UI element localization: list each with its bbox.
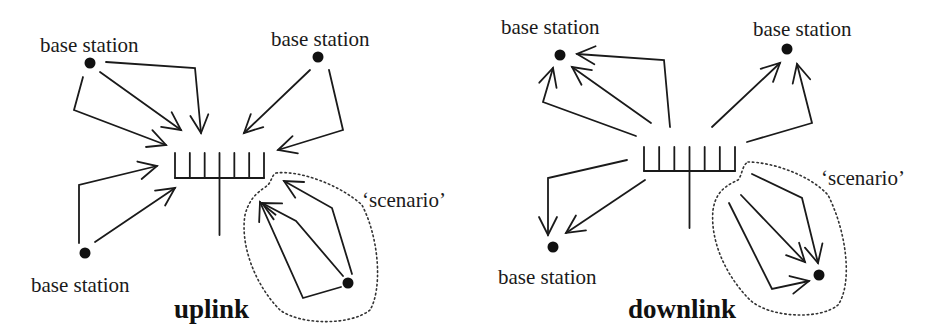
base-station-dot [313,52,324,63]
base-station-dot [85,58,96,69]
path-line [95,188,175,242]
base-station-label: base station [501,15,600,39]
signal-path [539,160,627,235]
path-line [566,180,645,233]
signal-path [95,188,175,242]
downlink-panel: base station base station base station ‘… [498,15,905,324]
base-station-dot [555,50,566,61]
base-station-label: base station [31,273,130,297]
signal-path [79,162,157,243]
path-line [741,195,805,262]
signal-path [741,195,805,262]
panel-title: uplink [174,294,249,324]
path-line [747,64,812,142]
signal-path [100,72,181,130]
antenna-array [644,147,735,228]
signal-path [244,70,310,133]
signal-path [106,62,208,133]
base-station-dot [814,270,825,281]
path-line [577,54,670,127]
path-line [752,174,818,263]
signal-path [284,181,352,274]
signal-path [712,63,780,127]
base-station-dot [343,278,354,289]
path-line [100,72,181,130]
base-station-label: base station [40,33,139,57]
multipath-diagram: base station base station base station ‘… [0,0,929,335]
uplink-panel: base station base station base station ‘… [31,27,446,324]
signal-path [566,180,645,233]
scenario-label: ‘scenario’ [362,188,446,212]
panel-title: downlink [628,294,736,324]
path-line [572,67,651,123]
signal-path [74,77,166,147]
signal-path [577,46,670,127]
scenario-label: ‘scenario’ [821,166,905,190]
path-line [106,62,201,133]
path-line [729,203,809,289]
path-line [244,70,310,133]
signal-path [572,67,651,123]
signal-path [278,70,343,153]
scenario-boundary [244,173,378,322]
base-station-label: base station [271,27,370,51]
path-line [79,166,157,243]
base-station-dot [80,248,91,259]
antenna-array [175,153,264,235]
path-line [278,70,343,150]
base-station-label: base station [498,265,597,289]
base-station-label: base station [753,17,852,41]
signal-path [747,64,812,142]
base-station-dot [548,242,559,253]
path-line [712,63,780,127]
path-line [548,160,627,235]
base-station-dot [782,44,793,55]
signal-path [729,203,809,294]
